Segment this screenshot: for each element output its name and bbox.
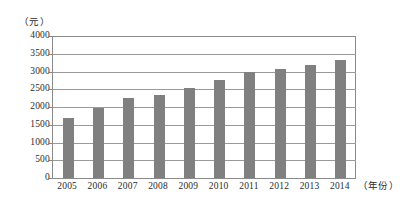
x-axis-tick-label: 2014 bbox=[330, 182, 350, 192]
y-axis-unit-label: （元） bbox=[19, 14, 50, 28]
y-axis-tick-label: 1500 bbox=[30, 120, 50, 130]
bar bbox=[275, 69, 286, 178]
bar bbox=[184, 88, 195, 178]
x-axis-tick-label: 2006 bbox=[88, 182, 108, 192]
x-axis-tick-label: 2008 bbox=[148, 182, 168, 192]
x-axis-tick-label: 2011 bbox=[239, 182, 258, 192]
y-axis-tick-label: 3000 bbox=[30, 67, 50, 77]
bar bbox=[335, 60, 346, 178]
bar bbox=[214, 80, 225, 178]
x-axis-tick-label: 2010 bbox=[209, 182, 229, 192]
bar bbox=[154, 95, 165, 178]
x-axis-tick-label: 2013 bbox=[300, 182, 320, 192]
x-axis-tick-label: 2012 bbox=[269, 182, 289, 192]
x-axis-unit-label: （年份） bbox=[358, 182, 399, 192]
x-axis-tick-label: 2009 bbox=[178, 182, 198, 192]
bar bbox=[63, 118, 74, 178]
bar-chart-figure: （元） 05001000150020002500300035004000 200… bbox=[0, 0, 407, 212]
y-axis-tick-label: 0 bbox=[45, 173, 50, 183]
y-axis-tick-label: 2000 bbox=[30, 102, 50, 112]
x-axis-tick-label: 2005 bbox=[57, 182, 77, 192]
y-axis-tick-label: 2500 bbox=[30, 85, 50, 95]
bar bbox=[244, 72, 255, 178]
x-axis-tick-label: 2007 bbox=[118, 182, 138, 192]
bars-layer bbox=[53, 36, 356, 178]
plot-area bbox=[52, 36, 356, 179]
bar bbox=[305, 65, 316, 178]
y-axis-tick-label: 500 bbox=[35, 156, 50, 166]
y-axis-tick-label: 4000 bbox=[30, 31, 50, 41]
y-axis-tick-label: 1000 bbox=[30, 138, 50, 148]
y-axis-tick-label: 3500 bbox=[30, 49, 50, 59]
bar bbox=[93, 108, 104, 178]
bar bbox=[123, 98, 134, 178]
